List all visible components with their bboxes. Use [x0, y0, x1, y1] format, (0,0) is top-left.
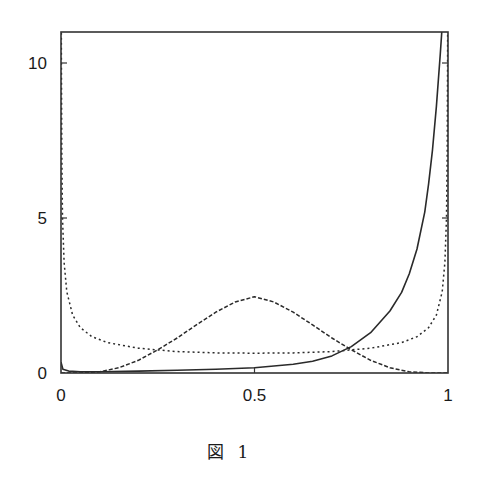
x-tick-label: 0: [56, 386, 65, 405]
y-tick-label: 10: [28, 54, 47, 73]
tick-labels: 00.510510: [28, 54, 453, 405]
figure-caption: 図 1: [207, 438, 252, 463]
axis-ticks: [61, 63, 448, 373]
y-tick-label: 0: [38, 364, 47, 383]
series-dashed-line: [61, 297, 448, 373]
plot-area: [61, 0, 448, 373]
x-tick-label: 1: [443, 386, 452, 405]
y-tick-label: 5: [38, 209, 47, 228]
plot-frame: [61, 32, 448, 373]
x-tick-label: 0.5: [243, 386, 267, 405]
series-dotted-line: [61, 0, 448, 353]
chart: 00.510510: [0, 0, 482, 484]
series-solid-line: [61, 26, 442, 372]
